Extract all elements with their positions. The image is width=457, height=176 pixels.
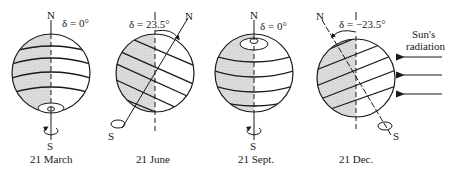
north-label: N (47, 9, 55, 21)
seasons-diagram: N δ = 0° S 21 March N δ = 23.5° S 21 Jun… (0, 0, 457, 176)
globe-june: N δ = 23.5° S 21 June (108, 10, 200, 165)
declination-angle-arc (333, 31, 356, 36)
declination-label: δ = 0° (260, 20, 287, 32)
south-label: S (108, 130, 114, 142)
sun-label-line1: Sun's (412, 28, 435, 40)
north-label: N (250, 9, 258, 21)
rotation-arrow-icon (378, 122, 392, 130)
south-label: S (47, 140, 53, 152)
rotation-arrow-icon (111, 120, 125, 128)
south-label: S (393, 130, 399, 142)
date-caption: 21 Sept. (238, 153, 274, 165)
declination-label: δ = 0° (62, 17, 89, 29)
sun-radiation: Sun's radiation (404, 28, 446, 94)
north-label: N (316, 10, 324, 22)
globe-sept: N δ = 0° S 21 Sept. (212, 9, 293, 165)
declination-label: δ = 23.5° (129, 18, 170, 30)
globe-march: N δ = 0° S 21 March (10, 9, 90, 165)
globe-dec: N δ = −23.5° S 21 Dec. (315, 10, 399, 165)
night-side-shading (110, 30, 155, 120)
date-caption: 21 June (136, 153, 170, 165)
date-caption: 21 Dec. (339, 153, 373, 165)
north-label: N (185, 10, 193, 22)
date-caption: 21 March (30, 153, 73, 165)
sun-label-line2: radiation (406, 40, 446, 52)
south-label: S (250, 140, 256, 152)
declination-label: δ = −23.5° (339, 18, 386, 30)
